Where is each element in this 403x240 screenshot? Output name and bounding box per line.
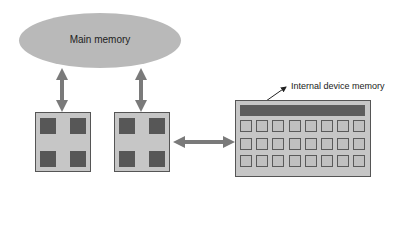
device-cell: [256, 155, 268, 167]
device-cell: [353, 138, 365, 150]
device-board: [235, 100, 371, 177]
device-cell: [337, 155, 349, 167]
core: [119, 151, 135, 167]
device-cell: [353, 155, 365, 167]
device-cell: [256, 120, 268, 132]
core: [119, 118, 135, 134]
device-cell: [305, 155, 317, 167]
core: [70, 118, 86, 134]
processor-2: [114, 112, 170, 172]
internal-device-memory-label: Internal device memory: [291, 81, 385, 91]
core: [149, 151, 165, 167]
device-cell: [353, 120, 365, 132]
device-cell: [321, 155, 333, 167]
core: [70, 151, 86, 167]
device-cell: [289, 138, 301, 150]
device-cell: [272, 120, 284, 132]
device-cell: [256, 138, 268, 150]
device-cell: [289, 120, 301, 132]
internal-device-memory-bar: [240, 105, 365, 116]
device-cell: [321, 120, 333, 132]
device-cell: [337, 138, 349, 150]
device-cell: [240, 155, 252, 167]
device-cell: [240, 120, 252, 132]
device-cell: [240, 138, 252, 150]
device-cell: [272, 155, 284, 167]
device-cell: [321, 138, 333, 150]
device-cell: [305, 120, 317, 132]
processor-1: [35, 112, 91, 172]
device-cell: [305, 138, 317, 150]
device-cell: [272, 138, 284, 150]
device-cell: [337, 120, 349, 132]
device-cell: [289, 155, 301, 167]
core: [149, 118, 165, 134]
core: [40, 118, 56, 134]
core: [40, 151, 56, 167]
